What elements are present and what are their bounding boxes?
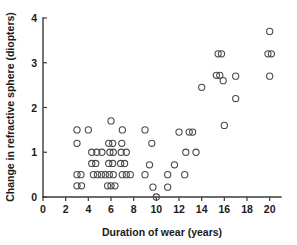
data-point: [142, 127, 148, 133]
x-tick-label: 8: [131, 203, 137, 215]
x-tick-label: 14: [196, 203, 208, 215]
data-point: [165, 184, 171, 190]
data-point: [176, 129, 182, 135]
y-tick-label: 1: [31, 146, 37, 158]
data-point: [165, 172, 171, 178]
x-axis-title: Duration of wear (years): [102, 226, 222, 238]
data-point: [112, 183, 118, 189]
x-tick-label: 12: [173, 203, 185, 215]
x-axis-group: 02468101214161820: [40, 197, 281, 215]
x-tick-label: 2: [63, 203, 69, 215]
data-point: [122, 160, 128, 166]
data-point: [85, 127, 91, 133]
data-point: [110, 160, 116, 166]
y-axis-tick-labels: 01234: [31, 12, 37, 203]
data-point: [199, 84, 205, 90]
y-tick-label: 2: [31, 102, 37, 114]
data-point: [267, 28, 273, 34]
y-tick-label: 4: [31, 12, 37, 24]
x-tick-label: 0: [40, 203, 46, 215]
data-point: [127, 172, 133, 178]
x-tick-label: 10: [150, 203, 162, 215]
data-point: [110, 172, 116, 178]
data-point: [119, 140, 125, 146]
data-point: [110, 140, 116, 146]
data-point: [220, 78, 226, 84]
y-axis-group: 01234: [31, 12, 47, 203]
data-point: [74, 127, 80, 133]
x-tick-label: 6: [108, 203, 114, 215]
data-point: [150, 184, 156, 190]
data-point: [78, 172, 84, 178]
data-point: [149, 140, 155, 146]
data-point: [171, 162, 177, 168]
data-point: [233, 73, 239, 79]
x-tick-label: 16: [218, 203, 230, 215]
data-point: [78, 183, 84, 189]
y-axis-title: Change in refractive sphere (diopters): [4, 12, 16, 202]
data-point: [142, 172, 148, 178]
x-tick-label: 20: [264, 203, 276, 215]
data-point: [74, 140, 80, 146]
scatter-plot-figure: 01234 02468101214161820 Duration of wear…: [0, 0, 297, 245]
y-tick-label: 0: [31, 191, 37, 203]
data-point: [193, 149, 199, 155]
data-point: [108, 118, 114, 124]
x-tick-label: 18: [241, 203, 253, 215]
data-point: [119, 127, 125, 133]
chart-canvas: 01234 02468101214161820 Duration of wear…: [0, 0, 297, 245]
data-points-group: [74, 28, 275, 200]
data-point: [183, 149, 189, 155]
data-point: [93, 160, 99, 166]
data-point: [267, 73, 273, 79]
data-point: [221, 122, 227, 128]
x-tick-label: 4: [85, 203, 91, 215]
data-point: [182, 172, 188, 178]
x-axis-tick-labels: 02468101214161820: [40, 203, 276, 215]
data-point: [233, 95, 239, 101]
y-tick-label: 3: [31, 57, 37, 69]
data-point: [146, 162, 152, 168]
